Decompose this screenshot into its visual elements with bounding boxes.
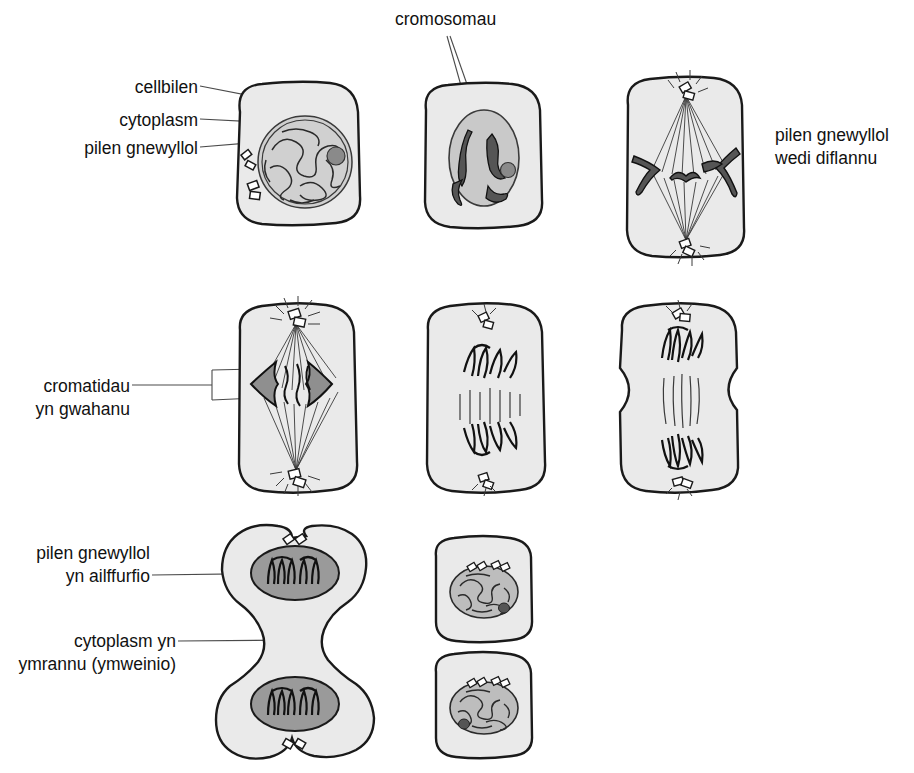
stage-telophase <box>620 300 738 500</box>
label-cytoplasm: cytoplasm <box>10 109 198 132</box>
label-chromosomes: cromosomau <box>395 8 575 31</box>
nucleolus <box>501 163 516 178</box>
stage-anaphase-early <box>239 296 357 496</box>
label-chromatids-line2: yn gwahanu <box>0 398 130 421</box>
stage-anaphase-late <box>427 303 545 496</box>
stage-cytokinesis <box>216 525 374 759</box>
label-nuclear-membrane-gone-line2: wedi diflannu <box>775 147 914 170</box>
label-cytokinesis-line1: cytoplasm yn <box>0 630 176 653</box>
stage-interphase <box>237 82 360 226</box>
label-nuclear-reform-line2: yn ailffurfio <box>0 565 150 588</box>
mitosis-diagram: cellbilen cytoplasm pilen gnewyllol crom… <box>0 0 914 773</box>
nucleolus <box>499 603 510 613</box>
label-nuclear-membrane: pilen gnewyllol <box>10 137 198 160</box>
nucleolus <box>459 719 470 729</box>
label-cell-membrane: cellbilen <box>20 76 198 99</box>
label-nuclear-membrane-gone-line1: pilen gnewyllol <box>775 124 914 147</box>
nucleolus <box>327 147 345 165</box>
stage-prophase <box>425 83 542 229</box>
stage-daughter-bottom <box>436 652 532 758</box>
label-nuclear-reform-line1: pilen gnewyllol <box>0 542 150 565</box>
stage-prometaphase <box>627 70 744 266</box>
stage-daughter-top <box>436 536 532 642</box>
label-cytokinesis-line2: ymrannu (ymweinio) <box>0 653 176 676</box>
label-chromatids-line1: cromatidau <box>0 375 130 398</box>
